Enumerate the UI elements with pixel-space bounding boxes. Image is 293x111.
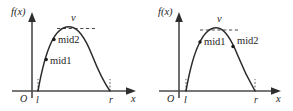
right-boundary-label-left: r xyxy=(109,94,113,105)
mid1-label-right: mid1 xyxy=(204,36,226,47)
mid1-point-right xyxy=(198,40,201,43)
mid2-point-left xyxy=(52,38,55,41)
y-axis-label-left: f(x) xyxy=(11,6,26,18)
y-axis-arrowhead-right xyxy=(175,12,183,22)
y-axis-label-right: f(x) xyxy=(158,6,173,18)
left-boundary-label-right: l xyxy=(184,94,187,105)
peak-label-right: v xyxy=(217,13,222,24)
left-boundary-label-left: l xyxy=(36,94,39,105)
figure-root: f(x) x O l r v mid1 mid2 xyxy=(0,0,293,111)
mid2-point-right xyxy=(231,45,234,48)
chart-panel-left: f(x) x O l r v mid1 mid2 xyxy=(0,0,146,111)
x-axis-label-right: x xyxy=(275,93,281,104)
origin-label-right: O xyxy=(167,93,174,104)
mid1-label-left: mid1 xyxy=(50,55,72,66)
origin-label-left: O xyxy=(20,93,27,104)
mid2-label-right: mid2 xyxy=(237,35,259,46)
y-axis-arrowhead-left xyxy=(28,12,36,22)
x-axis-label-left: x xyxy=(130,93,136,104)
peak-label-left: v xyxy=(71,12,76,23)
chart-panel-right: f(x) x O l r v mid1 mid2 xyxy=(147,0,293,111)
right-boundary-label-right: r xyxy=(254,94,258,105)
mid1-point-left xyxy=(45,58,48,61)
mid2-label-left: mid2 xyxy=(58,34,80,45)
